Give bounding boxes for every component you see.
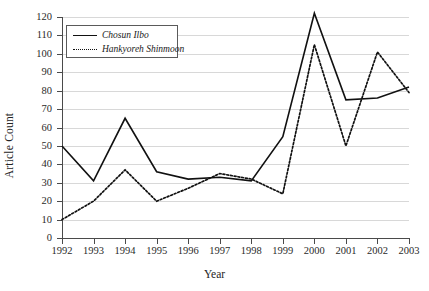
legend-dotted-line-icon (73, 46, 97, 52)
series-line-hankyoreh-shinmoon (62, 45, 409, 220)
legend: Chosun Ilbo Hankyoreh Shinmoon (66, 25, 178, 58)
legend-item-chosun-ilbo: Chosun Ilbo (73, 28, 149, 42)
line-chart: Article Count 12011010090807060504030201… (0, 0, 429, 291)
legend-label-hankyoreh-shinmoon: Hankyoreh Shinmoon (102, 44, 184, 54)
x-axis-title: Year (0, 268, 429, 280)
series-layer (0, 0, 429, 291)
legend-item-hankyoreh-shinmoon: Hankyoreh Shinmoon (73, 42, 184, 56)
legend-solid-line-icon (73, 32, 97, 38)
legend-label-chosun-ilbo: Chosun Ilbo (102, 30, 149, 40)
